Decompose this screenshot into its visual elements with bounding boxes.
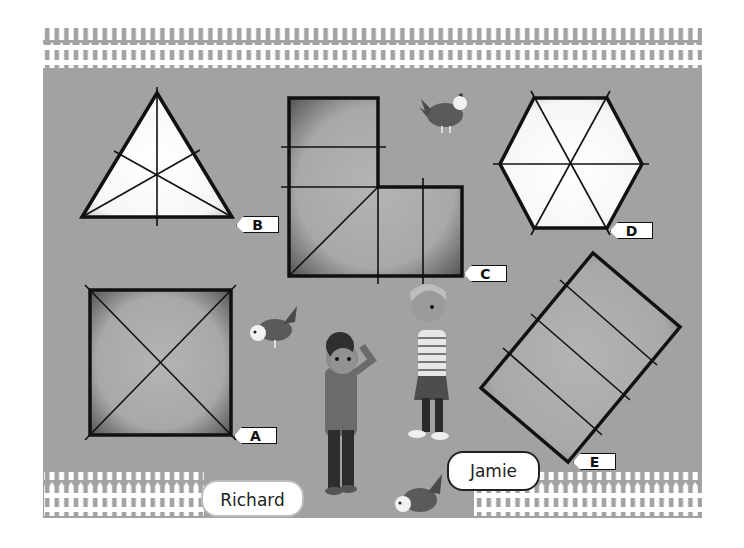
character-richard	[325, 332, 372, 495]
chicken-middle	[250, 306, 297, 348]
label-e: E	[573, 453, 616, 470]
shape-e-rectangle[interactable]	[481, 253, 680, 462]
character-jamie	[408, 284, 449, 440]
label-c: C	[464, 265, 507, 282]
scene-artwork	[0, 0, 744, 548]
name-tag-richard: Richard	[201, 480, 304, 517]
shape-c-l-shape[interactable]	[281, 98, 462, 284]
chicken-bottom	[395, 474, 442, 512]
shape-a-square[interactable]	[85, 285, 236, 440]
name-tag-jamie: Jamie	[447, 451, 540, 491]
label-d: D	[610, 222, 653, 239]
label-a: A	[234, 427, 277, 444]
chicken-top	[419, 93, 467, 133]
shape-b-triangle[interactable]	[82, 87, 232, 226]
bottom-fence-left	[44, 472, 204, 516]
label-b: B	[236, 216, 279, 233]
shape-d-hexagon[interactable]	[493, 91, 649, 235]
